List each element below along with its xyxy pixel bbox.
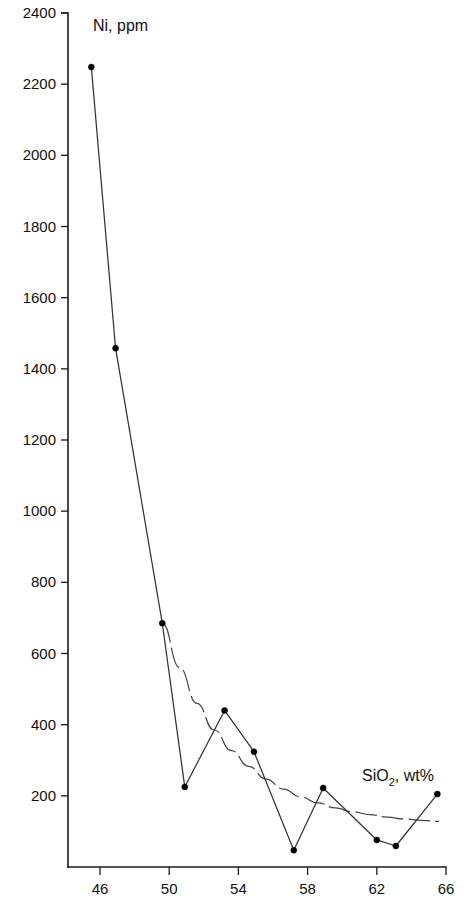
y-tick-label: 400	[31, 716, 56, 733]
x-tick-label: 50	[161, 880, 178, 897]
y-tick-label: 1400	[23, 360, 56, 377]
y-tick-label: 1000	[23, 502, 56, 519]
data-point-marker	[291, 847, 297, 853]
x-axis-title-rest: , wt%	[395, 767, 434, 784]
y-tick-label: 2400	[23, 4, 56, 21]
data-point-marker	[182, 784, 188, 790]
chart-canvas: 2004006008001000120014001600180020002200…	[0, 0, 473, 910]
data-point-marker	[222, 707, 228, 713]
y-tick-label: 2000	[23, 146, 56, 163]
y-tick-label: 800	[31, 573, 56, 590]
x-tick-label: 58	[299, 880, 316, 897]
x-axis-title: SiO2, wt%	[362, 767, 434, 788]
y-tick-label: 2200	[23, 75, 56, 92]
data-point-marker	[113, 345, 119, 351]
data-point-markers	[88, 64, 440, 853]
x-axis-title-base: SiO	[362, 767, 389, 784]
x-tick-label: 46	[92, 880, 109, 897]
x-axis-ticks: 465054586266	[92, 867, 455, 897]
y-tick-label: 1600	[23, 289, 56, 306]
y-tick-label: 1200	[23, 431, 56, 448]
data-point-marker	[434, 791, 440, 797]
data-point-marker	[159, 620, 165, 626]
ni-vs-sio2-chart: 2004006008001000120014001600180020002200…	[0, 0, 473, 910]
data-point-marker	[374, 837, 380, 843]
trend-curve	[162, 623, 439, 821]
y-axis-ticks: 2004006008001000120014001600180020002200…	[23, 4, 68, 804]
x-tick-label: 62	[368, 880, 385, 897]
data-series-line	[91, 67, 437, 850]
x-tick-label: 54	[230, 880, 247, 897]
data-point-marker	[393, 843, 399, 849]
data-point-marker	[251, 749, 257, 755]
x-tick-label: 66	[438, 880, 455, 897]
y-axis-title: Ni, ppm	[93, 17, 148, 34]
y-tick-label: 200	[31, 787, 56, 804]
data-point-marker	[320, 785, 326, 791]
data-point-marker	[88, 64, 94, 70]
y-tick-label: 1800	[23, 218, 56, 235]
y-tick-label: 600	[31, 645, 56, 662]
